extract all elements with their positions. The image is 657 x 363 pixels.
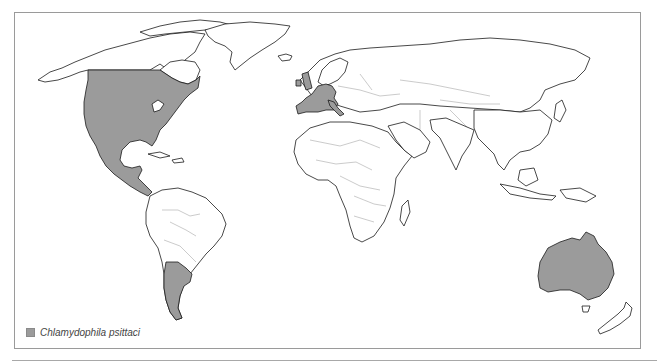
landmass-tasmania [582, 306, 590, 312]
shaded-western-europe [296, 84, 338, 114]
shaded-australia [538, 232, 614, 300]
world-map [0, 0, 657, 363]
landmass-borneo [518, 168, 538, 186]
bottom-divider [12, 360, 657, 361]
landmass-madagascar [400, 200, 410, 226]
legend: Chlamydophila psittaci [26, 327, 140, 338]
landmass-south-america [146, 188, 226, 320]
landmass-japan [554, 100, 566, 122]
landmass-new-guinea [560, 188, 596, 202]
landmass-east-asia [474, 110, 552, 170]
landmass-cuba [148, 152, 170, 158]
shaded-argentina [164, 262, 192, 320]
landmass-greenland [205, 22, 290, 70]
landmass-india [430, 118, 474, 170]
landmass-new-zealand [598, 302, 632, 334]
shaded-ireland [296, 80, 301, 86]
landmass-indonesia [500, 184, 556, 200]
landmass-hispaniola [172, 158, 184, 163]
legend-label: Chlamydophila psittaci [40, 327, 140, 338]
shaded-north-america [84, 70, 200, 196]
landmass-iceland [278, 54, 292, 61]
legend-swatch [26, 328, 35, 337]
